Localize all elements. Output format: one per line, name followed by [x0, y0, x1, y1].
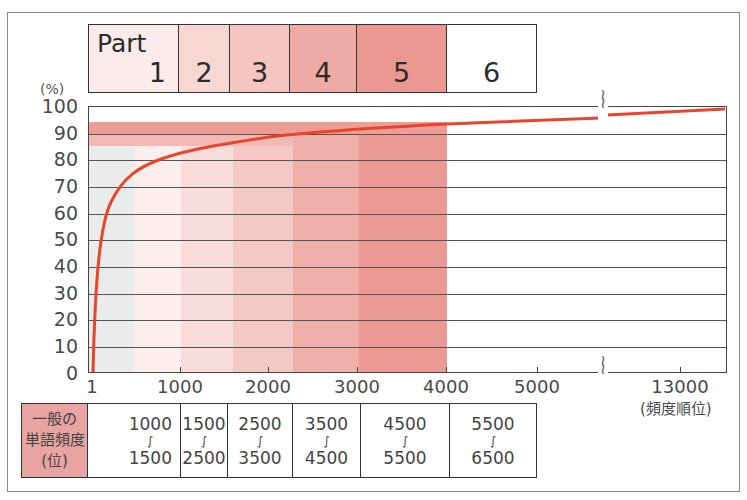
range-to: 2500: [182, 447, 225, 469]
part-number: 2: [179, 57, 229, 88]
range-cell-part3: 2500 ∫ 3500: [228, 404, 293, 477]
axis-break-bottom: ≀≀: [598, 357, 608, 387]
range-cell-part4: 3500 ∫ 4500: [293, 404, 361, 477]
part-6-cell: 6: [447, 25, 536, 92]
x-tick: 2000: [245, 376, 291, 397]
part-2-cell: 2: [179, 25, 230, 92]
x-tick: 4000: [423, 376, 469, 397]
x-tick-mark: [446, 367, 447, 373]
range-to: 3500: [238, 447, 281, 469]
range-to: 6500: [471, 447, 514, 469]
y-tick: 100: [0, 96, 78, 116]
x-tick-mark: [357, 367, 358, 373]
header-line: 一般の: [32, 409, 77, 430]
range-from: 3500: [305, 413, 348, 435]
range-to: 4500: [305, 447, 348, 469]
range-sep: ∫: [402, 435, 408, 447]
range-from: 1500: [182, 413, 225, 435]
part-1-cell: Part 1: [89, 25, 179, 92]
range-to: 5500: [383, 447, 426, 469]
y-tick: 30: [0, 283, 78, 303]
part-5-cell: 5: [357, 25, 447, 92]
part-number: 4: [290, 57, 356, 88]
range-sep: ∫: [490, 435, 496, 447]
y-tick: 0: [0, 363, 78, 383]
header-line: (位): [41, 451, 68, 472]
x-tick-mark: [537, 367, 538, 373]
y-tick: 20: [0, 309, 78, 329]
x-tick-mark: [268, 367, 269, 373]
x-axis-unit: (頻度順位): [640, 397, 712, 418]
y-tick: 10: [0, 336, 78, 356]
part-number: 5: [357, 57, 446, 88]
x-tick-mark: [180, 367, 181, 373]
part-number: 3: [230, 57, 289, 88]
range-from: 2500: [238, 413, 281, 435]
range-cell-part5: 4500 ∫ 5500: [361, 404, 450, 477]
y-tick: 40: [0, 256, 78, 276]
y-tick: 90: [0, 123, 78, 143]
range-from: 1000: [129, 413, 172, 435]
part-header: Part 1 2 3 4 5 6: [88, 24, 537, 93]
part-number: 1: [149, 57, 166, 88]
range-from: 4500: [383, 413, 426, 435]
x-tick-mark: [680, 367, 681, 373]
range-cell-part1: 1000 ∫ 1500: [88, 404, 181, 477]
coverage-curve: [89, 107, 727, 373]
plot-area: [88, 106, 727, 373]
range-sep: ∫: [323, 435, 329, 447]
range-to: 1500: [129, 447, 172, 469]
part-number: 6: [447, 57, 536, 88]
range-from: 5500: [471, 413, 514, 435]
x-tick: 5000: [514, 376, 560, 397]
y-tick: 80: [0, 149, 78, 169]
range-sep: ∫: [257, 435, 263, 447]
x-tick: 3000: [334, 376, 380, 397]
frequency-header: 一般の 単語頻度 (位): [22, 404, 88, 477]
y-tick: 60: [0, 203, 78, 223]
frequency-table: 一般の 単語頻度 (位) 1000 ∫ 1500 1500 ∫ 2500 250…: [21, 403, 537, 478]
x-tick: 13000: [651, 376, 708, 397]
part-label: Part: [97, 29, 146, 58]
part-4-cell: 4: [290, 25, 357, 92]
range-cell-part2: 1500 ∫ 2500: [181, 404, 228, 477]
header-line: 単語頻度: [25, 430, 85, 451]
y-tick: 50: [0, 229, 78, 249]
range-sep: ∫: [201, 435, 207, 447]
range-sep: ∫: [147, 435, 153, 447]
part-3-cell: 3: [230, 25, 290, 92]
x-tick: 1000: [157, 376, 203, 397]
y-tick: 70: [0, 176, 78, 196]
x-tick: 1: [86, 376, 97, 397]
axis-break-top: ≀≀: [598, 91, 608, 121]
range-cell-part6: 5500 ∫ 6500: [450, 404, 536, 477]
